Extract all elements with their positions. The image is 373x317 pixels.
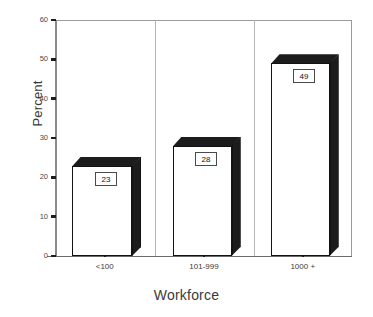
y-tick-30 (51, 137, 56, 140)
y-tick-label-60: 60 (26, 15, 48, 24)
category-separator-1 (155, 20, 156, 256)
y-tick-20 (51, 176, 56, 179)
y-tick-label-40: 40 (26, 94, 48, 103)
bar-chart: Percent 0102030405060 <100101-9991000 + … (0, 0, 373, 317)
bar-side-face-1 (232, 137, 241, 256)
bar-side-face-0 (132, 157, 141, 256)
y-tick-10 (51, 215, 56, 218)
bar-value-label-0: 23 (95, 172, 117, 186)
category-separator-2 (254, 20, 255, 256)
y-tick-40 (51, 97, 56, 100)
y-tick-label-10: 10 (26, 212, 48, 221)
x-tick-label-2: 1000 + (263, 262, 343, 271)
bar-side-face-2 (330, 54, 339, 256)
y-tick-label-0: 0 (26, 251, 48, 260)
y-tick-60 (51, 19, 56, 22)
bar-2 (271, 54, 339, 256)
x-axis-title: Workforce (0, 287, 373, 303)
bar-value-label-2: 49 (293, 69, 315, 83)
y-tick-label-20: 20 (26, 172, 48, 181)
y-tick-label-30: 30 (26, 133, 48, 142)
y-tick-label-50: 50 (26, 54, 48, 63)
y-axis-title: Percent (30, 69, 45, 139)
x-tick-label-1: 101-999 (164, 262, 244, 271)
bar-value-label-1: 28 (195, 152, 217, 166)
bar-front-face-2 (271, 63, 330, 256)
y-tick-50 (51, 58, 56, 61)
x-tick-label-0: <100 (65, 262, 145, 271)
y-tick-0 (51, 255, 56, 258)
